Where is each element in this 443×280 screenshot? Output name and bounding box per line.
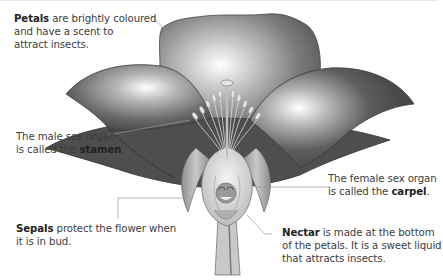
stamen-label: The male sex organ is called the stamen. [16, 130, 146, 156]
sepals-term: Sepals [16, 223, 53, 234]
nectar-term: Nectar [282, 227, 320, 238]
petals-term: Petals [14, 13, 49, 24]
stem [215, 218, 240, 275]
nectar-label: Nectar is made at the bottom of the peta… [282, 226, 442, 265]
stamen-term: stamen [79, 144, 121, 155]
sepals-label: Sepals protect the flower when it is in … [16, 222, 196, 248]
carpel-term: carpel [391, 186, 426, 197]
carpel-label: The female sex organ is called the carpe… [328, 172, 443, 198]
petals-label: Petals are brightly coloured and have a … [14, 12, 174, 51]
